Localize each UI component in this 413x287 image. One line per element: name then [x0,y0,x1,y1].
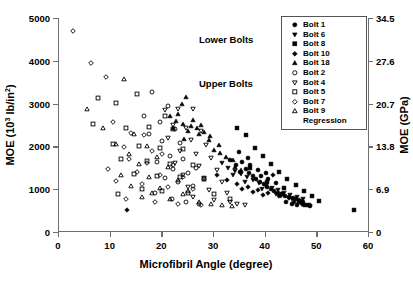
data-point [180,192,185,197]
legend-item[interactable]: Bolt 5 [286,87,362,97]
data-point [271,172,276,177]
data-point [167,197,172,202]
right-tick [368,18,373,19]
right-tick-label: 0 [376,227,381,238]
data-point [129,183,134,188]
right-tick [368,61,373,62]
legend-item[interactable]: Bolt 10 [286,49,362,59]
legend-label: Bolt 2 [303,68,325,78]
data-point [121,145,126,150]
legend-label: Bolt 5 [303,87,325,97]
data-point [250,189,255,194]
data-point [165,164,170,169]
data-point [230,172,235,177]
data-point [139,186,144,191]
x-tick [213,232,214,237]
data-point [299,201,304,206]
data-point [238,168,243,173]
data-point [219,203,224,208]
x-tick [110,232,111,237]
data-point [170,163,175,168]
legend-label: Bolt 18 [303,58,330,68]
right-axis-line [368,18,369,232]
data-point [121,76,126,81]
data-point [219,160,224,165]
data-point [175,177,180,182]
legend-item[interactable]: Bolt 1 [286,20,362,30]
data-point [209,201,214,206]
data-point [260,192,265,197]
legend-label: Bolt 10 [303,49,330,59]
legend-item[interactable]: Bolt 18 [286,58,362,68]
right-tick-label: 6.9 [376,184,389,195]
right-tick-label: 27.6 [376,55,395,66]
data-point [253,145,258,150]
data-point [113,178,118,183]
y-axis-title-right: MOE (GPa) [398,96,410,153]
annotation-upper-bolts: Upper Bolts [199,78,253,89]
data-point [264,179,269,184]
legend-item[interactable]: Bolt 9 [286,106,362,116]
data-point [191,163,196,168]
legend-item[interactable]: Bolt 2 [286,68,362,78]
data-point [224,154,229,159]
data-point [214,172,219,177]
data-point [136,162,141,167]
legend-item[interactable]: Bolt 4 [286,78,362,88]
data-point [226,166,231,171]
data-point [167,153,172,158]
data-point [180,146,185,151]
data-point [157,172,162,177]
data-point [317,198,322,203]
data-point [142,114,147,119]
data-point [211,147,216,152]
data-point [219,179,224,184]
y-axis-title-left: MOE (103 lb/in2) [4,84,17,165]
x-tick [58,232,59,237]
y-tick [53,146,58,147]
data-point [285,176,290,181]
x-tick-label: 10 [104,240,115,251]
right-tick-label: 13.8 [376,141,395,152]
x-tick [265,232,266,237]
figure: 010002000300040005000 0102030405060 06.9… [0,0,413,287]
legend-marker-square-icon [286,41,303,47]
data-point [113,100,118,105]
data-point [266,191,271,196]
legend-marker-diamond-icon [286,99,303,105]
data-point [229,204,234,209]
data-point [232,164,237,169]
x-tick [316,232,317,237]
legend-item[interactable]: Bolt 8 [286,39,362,49]
data-point [152,199,157,204]
data-point [142,133,147,138]
data-point [100,126,105,131]
legend-item[interactable]: Bolt 7 [286,97,362,107]
right-tick-label: 20.7 [376,98,395,109]
data-point [183,125,188,130]
legend-item[interactable]: Regression [286,116,362,126]
data-point [162,113,167,118]
x-tick [161,232,162,237]
y-tick-label: 5000 [0,13,50,24]
data-point [139,181,144,186]
data-point [131,132,136,137]
data-point [214,167,219,172]
y-tick-label: 1000 [0,184,50,195]
right-tick [368,189,373,190]
data-point [149,148,154,153]
data-point [235,125,240,130]
data-point [157,186,162,191]
legend-marker-triangle-up-icon [286,60,303,66]
data-point [85,106,90,111]
legend-item[interactable]: Bolt 6 [286,30,362,40]
data-point [236,149,241,154]
y-tick [53,61,58,62]
data-point [301,188,306,193]
data-point [149,191,154,196]
x-axis-title: Microfibril Angle (degree) [140,258,273,270]
data-point [307,202,312,207]
data-point [71,28,76,33]
right-tick [368,232,373,233]
data-point [198,122,203,127]
